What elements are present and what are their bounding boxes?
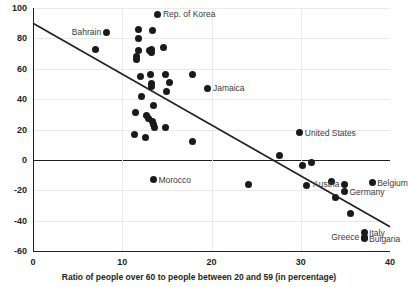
point-label: Belgium bbox=[377, 178, 408, 187]
point-label: Bahrain bbox=[72, 28, 101, 37]
x-axis-tick-label: 0 bbox=[18, 258, 48, 267]
y-axis-tick-label: 100 bbox=[0, 4, 27, 13]
point-label: United States bbox=[305, 128, 356, 137]
y-axis-tick-label: 0 bbox=[0, 156, 27, 165]
x-axis-title: Ratio of people over 60 to people betwee… bbox=[0, 272, 398, 282]
point-label: Morocco bbox=[158, 175, 191, 184]
point-label: Austria bbox=[313, 180, 339, 189]
point-label: Germany bbox=[349, 188, 384, 197]
x-axis-tick-label: 10 bbox=[107, 258, 137, 267]
x-axis-tick-label: 20 bbox=[197, 258, 227, 267]
y-axis-tick-label: -20 bbox=[0, 186, 27, 195]
y-axis-tick-label: 40 bbox=[0, 95, 27, 104]
y-axis-tick-label: 60 bbox=[0, 65, 27, 74]
x-axis-line bbox=[33, 251, 390, 252]
point-label: Jamaica bbox=[213, 84, 245, 93]
point-label: Rep. of Korea bbox=[163, 10, 215, 19]
y-axis-tick-label: -40 bbox=[0, 217, 27, 226]
y-axis-tick-label: -60 bbox=[0, 247, 27, 256]
y-axis-tick-label: 80 bbox=[0, 34, 27, 43]
y-axis-tick-label: 20 bbox=[0, 126, 27, 135]
x-axis-tick-label: 30 bbox=[286, 258, 316, 267]
x-axis-tick-label: 40 bbox=[375, 258, 405, 267]
y-axis-line bbox=[33, 8, 34, 251]
point-label: Greece bbox=[331, 233, 359, 242]
point-label: Bulgaria bbox=[369, 235, 400, 244]
